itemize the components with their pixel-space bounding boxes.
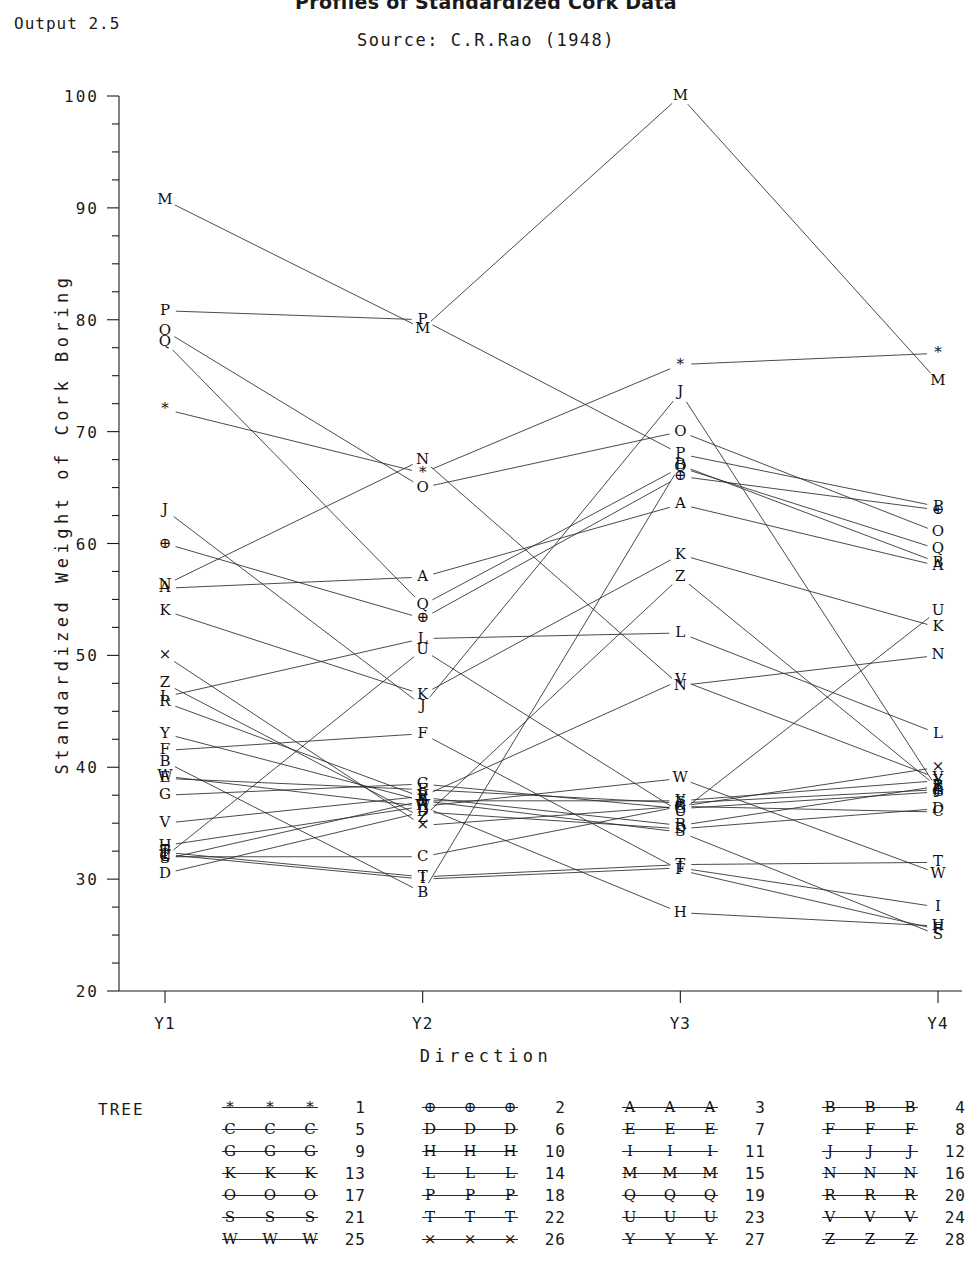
legend: TREE ***1⊕⊕⊕2AAA3BBB4CCC5DDD6EEE7FFF8GGG… bbox=[0, 1096, 972, 1261]
legend-glyph-icon: Q bbox=[616, 1186, 644, 1204]
series-point-symbol: P bbox=[418, 310, 428, 328]
legend-glyph-icon: × bbox=[456, 1230, 484, 1248]
series-point-symbol: S bbox=[933, 925, 943, 943]
series-point-symbol: D bbox=[932, 799, 944, 817]
legend-glyph-icon: P bbox=[496, 1186, 524, 1204]
legend-glyph-icon: U bbox=[616, 1208, 644, 1226]
series-point-symbol: S bbox=[675, 822, 685, 840]
legend-glyph-icon: O bbox=[216, 1186, 244, 1204]
legend-glyph-icon: F bbox=[856, 1120, 884, 1138]
series-point-symbol: V bbox=[159, 813, 172, 831]
legend-glyph-icon: U bbox=[656, 1208, 684, 1226]
legend-glyph-icon: G bbox=[256, 1142, 284, 1160]
legend-glyph-icon: T bbox=[496, 1208, 524, 1226]
y-tick-label: 90 bbox=[76, 199, 99, 218]
series-segment bbox=[176, 777, 412, 805]
legend-glyph-icon: C bbox=[296, 1120, 324, 1138]
series-point-symbol: W bbox=[930, 864, 946, 882]
legend-item: MMM15 bbox=[616, 1162, 816, 1184]
legend-glyph-icon: R bbox=[856, 1186, 884, 1204]
legend-glyph-icon: V bbox=[896, 1208, 924, 1226]
series-segment bbox=[431, 585, 673, 811]
legend-symbol-group: EEE bbox=[616, 1119, 724, 1139]
legend-item: WWW25 bbox=[216, 1228, 416, 1250]
legend-tree-number: 3 bbox=[724, 1098, 766, 1117]
legend-glyph-icon: D bbox=[496, 1120, 524, 1138]
legend-tree-number: 9 bbox=[324, 1142, 366, 1161]
y-tick-label: 70 bbox=[76, 423, 99, 442]
series-point-symbol: L bbox=[675, 623, 685, 641]
series-segment bbox=[691, 657, 927, 685]
legend-glyph-icon: Q bbox=[696, 1186, 724, 1204]
legend-glyph-icon: * bbox=[216, 1098, 244, 1116]
legend-tree-number: 18 bbox=[524, 1186, 566, 1205]
legend-item: HHH10 bbox=[416, 1140, 616, 1162]
legend-glyph-icon: E bbox=[696, 1120, 724, 1138]
legend-tree-number: 6 bbox=[524, 1120, 566, 1139]
legend-glyph-icon: N bbox=[896, 1164, 924, 1182]
legend-tree-number: 23 bbox=[724, 1208, 766, 1227]
x-tick-label: Y4 bbox=[927, 1014, 948, 1033]
legend-symbol-group: JJJ bbox=[816, 1141, 924, 1161]
series-segment bbox=[691, 862, 927, 864]
legend-symbol-group: CCC bbox=[216, 1119, 324, 1139]
legend-glyph-icon: * bbox=[296, 1098, 324, 1116]
legend-glyph-icon: J bbox=[896, 1142, 924, 1160]
x-tick-label: Y2 bbox=[412, 1014, 433, 1033]
series-segment bbox=[433, 685, 671, 792]
legend-glyph-icon: T bbox=[456, 1208, 484, 1226]
series-segment bbox=[691, 782, 928, 869]
legend-symbol-group: YYY bbox=[616, 1229, 724, 1249]
legend-symbol-group: HHH bbox=[416, 1141, 524, 1161]
legend-item: GGG9 bbox=[216, 1140, 416, 1162]
series-segment bbox=[176, 734, 412, 749]
legend-symbol-group: ZZZ bbox=[816, 1229, 924, 1249]
legend-item: BBB4 bbox=[816, 1096, 972, 1118]
series-point-symbol: Z bbox=[417, 808, 427, 826]
legend-glyph-icon: R bbox=[816, 1186, 844, 1204]
series-segment bbox=[434, 785, 670, 808]
series-point-symbol: C bbox=[417, 847, 428, 865]
legend-item: QQQ19 bbox=[616, 1184, 816, 1206]
plot-area: 2030405060708090100Y1Y2Y3Y4 ****⊕⊕⊕⊕AAAA… bbox=[0, 0, 972, 1266]
series-segment bbox=[689, 617, 929, 805]
series-segment bbox=[174, 517, 414, 699]
legend-tree-number: 22 bbox=[524, 1208, 566, 1227]
legend-glyph-icon: C bbox=[256, 1120, 284, 1138]
series-segment bbox=[175, 464, 413, 580]
legend-glyph-icon: L bbox=[416, 1164, 444, 1182]
legend-glyph-icon: M bbox=[696, 1164, 724, 1182]
legend-glyph-icon: L bbox=[456, 1164, 484, 1182]
series-segment bbox=[175, 767, 413, 888]
series-segment bbox=[176, 412, 412, 470]
x-tick-label: Y1 bbox=[154, 1014, 175, 1033]
legend-symbol-group: UUU bbox=[616, 1207, 724, 1227]
legend-glyph-icon: W bbox=[296, 1230, 324, 1248]
legend-symbol-group: MMM bbox=[616, 1163, 724, 1183]
series-point-symbol: V bbox=[674, 670, 687, 688]
legend-item: CCC5 bbox=[216, 1118, 416, 1140]
legend-grid: ***1⊕⊕⊕2AAA3BBB4CCC5DDD6EEE7FFF8GGG9HHH1… bbox=[216, 1096, 972, 1250]
series-segment bbox=[175, 688, 413, 812]
legend-glyph-icon: E bbox=[616, 1120, 644, 1138]
series-point-symbol: Y bbox=[417, 791, 429, 809]
legend-glyph-icon: ⊕ bbox=[456, 1098, 484, 1116]
legend-glyph-icon: P bbox=[456, 1186, 484, 1204]
series-point-symbol: G bbox=[159, 785, 171, 803]
legend-glyph-icon: Y bbox=[616, 1230, 644, 1248]
series-segment bbox=[691, 913, 927, 925]
legend-item: VVV24 bbox=[816, 1206, 972, 1228]
series-point-symbol: U bbox=[159, 847, 172, 865]
legend-tree-number: 11 bbox=[724, 1142, 766, 1161]
series-segment bbox=[430, 401, 674, 697]
legend-tree-number: 2 bbox=[524, 1098, 566, 1117]
legend-glyph-icon: K bbox=[256, 1164, 284, 1182]
series-point-symbol: O bbox=[417, 478, 429, 496]
series-segment bbox=[691, 684, 928, 775]
legend-item: III11 bbox=[616, 1140, 816, 1162]
series-segment bbox=[691, 769, 927, 805]
legend-item: JJJ12 bbox=[816, 1140, 972, 1162]
series-point-symbol: U bbox=[932, 601, 945, 619]
series-segment bbox=[432, 473, 670, 600]
series-point-symbol: O bbox=[932, 522, 944, 540]
